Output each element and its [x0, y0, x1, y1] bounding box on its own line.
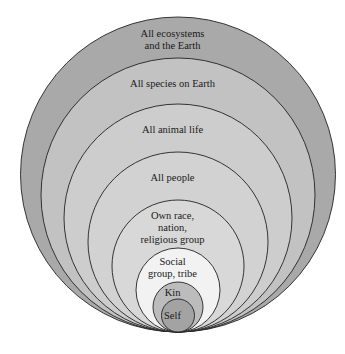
- label-social-line1: Social: [0, 256, 345, 268]
- label-kin-text: Kin: [0, 287, 345, 299]
- label-social-line2: group, tribe: [0, 268, 345, 280]
- label-race-line1: Own race,: [0, 210, 345, 222]
- label-animal-life: All animal life: [0, 124, 345, 136]
- label-social-group: Social group, tribe: [0, 256, 345, 280]
- label-animal-text: All animal life: [0, 124, 345, 136]
- nested-circles-diagram: All ecosystems and the Earth All species…: [0, 0, 345, 354]
- label-race-line2: nation,: [0, 222, 345, 234]
- label-race-line3: religious group: [0, 234, 345, 246]
- label-own-race: Own race, nation, religious group: [0, 210, 345, 246]
- label-ecosystems: All ecosystems and the Earth: [0, 28, 345, 52]
- label-kin: Kin: [0, 287, 345, 299]
- label-species-text: All species on Earth: [0, 78, 345, 90]
- label-people: All people: [0, 172, 345, 184]
- label-self: Self: [0, 310, 345, 322]
- label-people-text: All people: [0, 172, 345, 184]
- label-self-text: Self: [0, 310, 345, 322]
- label-species: All species on Earth: [0, 78, 345, 90]
- label-ecosystems-line2: and the Earth: [0, 40, 345, 52]
- label-ecosystems-line1: All ecosystems: [0, 28, 345, 40]
